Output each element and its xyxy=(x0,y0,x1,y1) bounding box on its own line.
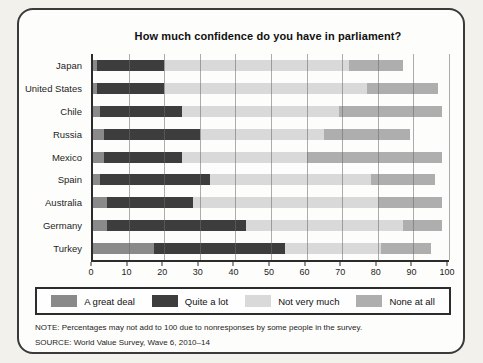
legend-label: Not very much xyxy=(278,296,339,307)
legend-swatch xyxy=(245,295,271,307)
bar-segment xyxy=(339,106,442,117)
bar-segment xyxy=(93,197,107,208)
axis-tick xyxy=(304,262,305,266)
gridline xyxy=(235,54,236,260)
bar-segment xyxy=(378,197,442,208)
bar-segment xyxy=(403,220,442,231)
bar-segment xyxy=(107,197,192,208)
bar-segment xyxy=(93,220,107,231)
bar-segment xyxy=(104,129,200,140)
legend-swatch xyxy=(356,295,382,307)
chart-title: How much confidence do you have in parli… xyxy=(89,30,447,42)
legend-swatch xyxy=(51,295,77,307)
axis-tick xyxy=(126,262,127,266)
category-label: Germany xyxy=(19,214,87,237)
source-text: SOURCE: World Value Survey, Wave 6, 2010… xyxy=(35,336,453,351)
bar-segment xyxy=(104,152,182,163)
bar-segment xyxy=(93,243,154,254)
gridline xyxy=(449,54,450,260)
axis-tick-label: 100 xyxy=(439,267,454,277)
category-label: Turkey xyxy=(19,237,87,260)
axis-tick xyxy=(375,262,376,266)
axis-tick xyxy=(233,262,234,266)
legend-swatch xyxy=(152,295,178,307)
legend-label: A great deal xyxy=(84,296,135,307)
bar-segment xyxy=(164,60,349,71)
gridline xyxy=(378,54,379,260)
axis-tick xyxy=(411,262,412,266)
legend-item: A great deal xyxy=(51,295,135,307)
category-label: Russia xyxy=(19,123,87,146)
axis-tick-label: 60 xyxy=(300,267,310,277)
bar-segment xyxy=(193,197,378,208)
axis-tick xyxy=(197,262,198,266)
gridline xyxy=(307,54,308,260)
gridline xyxy=(342,54,343,260)
bar-segment xyxy=(93,129,104,140)
category-label: Spain xyxy=(19,168,87,191)
bar-segment xyxy=(97,60,165,71)
footer: NOTE: Percentages may not add to 100 due… xyxy=(35,321,453,350)
bar-segment xyxy=(381,243,431,254)
bar-segment xyxy=(93,152,104,163)
axis-tick-label: 70 xyxy=(335,267,345,277)
axis-tick xyxy=(447,262,448,266)
bar-segment xyxy=(97,83,165,94)
note-text: NOTE: Percentages may not add to 100 due… xyxy=(35,321,453,336)
bar-segment xyxy=(371,174,435,185)
category-label: Chile xyxy=(19,100,87,123)
axis-tick-label: 80 xyxy=(371,267,381,277)
axis-tick-label: 10 xyxy=(122,267,132,277)
axis-tick-label: 20 xyxy=(157,267,167,277)
bar-segment xyxy=(164,83,367,94)
axis-tick xyxy=(162,262,163,266)
bar-segment xyxy=(285,243,381,254)
category-label: Japan xyxy=(19,54,87,77)
plot-area xyxy=(91,54,449,262)
bar-segment xyxy=(246,220,403,231)
bar-segment xyxy=(349,60,402,71)
gridline xyxy=(129,54,130,260)
gridline xyxy=(164,54,165,260)
gridline xyxy=(413,54,414,260)
category-label: Australia xyxy=(19,191,87,214)
page-background: How much confidence do you have in parli… xyxy=(0,0,483,363)
legend-item: None at all xyxy=(356,295,434,307)
bar-segment xyxy=(93,106,100,117)
gridline xyxy=(200,54,201,260)
axis-tick xyxy=(91,262,92,266)
axis-tick xyxy=(340,262,341,266)
bar-segment xyxy=(154,243,286,254)
bar-segment xyxy=(100,174,210,185)
axis-tick-label: 0 xyxy=(88,267,93,277)
axis-tick xyxy=(269,262,270,266)
axis-tick-label: 40 xyxy=(228,267,238,277)
category-label: Mexico xyxy=(19,146,87,169)
category-label: United States xyxy=(19,77,87,100)
legend: A great dealQuite a lotNot very muchNone… xyxy=(35,287,451,315)
axis-tick-label: 90 xyxy=(406,267,416,277)
bar-segment xyxy=(93,174,100,185)
chart-panel: How much confidence do you have in parli… xyxy=(17,8,465,354)
bar-segment xyxy=(307,152,442,163)
legend-label: None at all xyxy=(389,296,434,307)
legend-label: Quite a lot xyxy=(185,296,228,307)
axis-tick-label: 30 xyxy=(193,267,203,277)
category-labels: JapanUnited StatesChileRussiaMexicoSpain… xyxy=(19,54,87,260)
bar-segment xyxy=(324,129,409,140)
bar-segment xyxy=(100,106,182,117)
bar-segment xyxy=(182,106,339,117)
x-axis-ticks: 0102030405060708090100 xyxy=(91,262,447,280)
legend-item: Not very much xyxy=(245,295,339,307)
legend-item: Quite a lot xyxy=(152,295,228,307)
gridline xyxy=(271,54,272,260)
axis-tick-label: 50 xyxy=(264,267,274,277)
